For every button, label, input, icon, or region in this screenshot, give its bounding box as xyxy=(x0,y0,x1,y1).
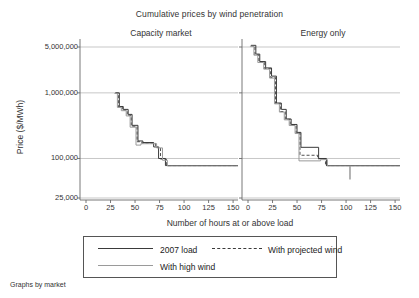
legend-box: 2007 load With projected wind With high … xyxy=(83,236,337,278)
series-line xyxy=(115,93,238,166)
legend-swatch-with-high-wind xyxy=(98,265,153,266)
series-line xyxy=(251,46,400,166)
legend-label-with-projected-wind: With projected wind xyxy=(268,245,342,255)
series-line xyxy=(250,46,400,179)
legend-swatch-2007-load xyxy=(98,248,153,249)
chart-footnote: Graphs by market xyxy=(10,281,66,288)
legend-label-2007-load: 2007 load xyxy=(160,245,197,255)
series-line xyxy=(114,93,238,166)
series-line xyxy=(115,93,238,165)
legend-swatch-with-projected-wind xyxy=(212,248,262,249)
chart-canvas: Cumulative prices by wind penetration Ca… xyxy=(0,0,419,298)
series-line xyxy=(251,45,400,165)
legend-label-with-high-wind: With high wind xyxy=(160,262,215,272)
